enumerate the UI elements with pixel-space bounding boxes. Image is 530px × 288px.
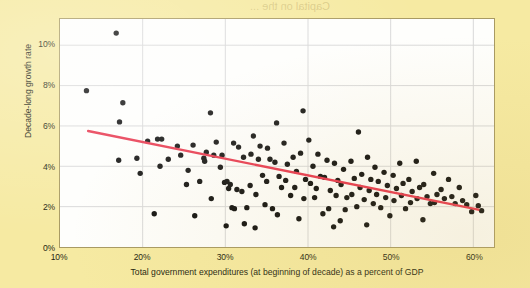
plot-area — [59, 18, 495, 248]
data-point — [303, 177, 308, 182]
data-point — [270, 206, 275, 211]
data-point — [248, 152, 253, 157]
data-point — [234, 187, 239, 192]
data-point — [374, 192, 379, 197]
data-point — [223, 223, 228, 228]
y-axis-label: Decade-long growth rate — [23, 11, 33, 171]
data-point — [285, 162, 290, 167]
data-point — [442, 196, 447, 201]
data-point — [314, 186, 319, 191]
data-point — [326, 206, 331, 211]
data-point — [300, 108, 305, 113]
data-point — [460, 198, 465, 203]
data-point — [324, 158, 329, 163]
data-point — [159, 136, 164, 141]
data-point — [260, 173, 265, 178]
data-point — [252, 225, 257, 230]
x-axis-tick-label: 30% — [201, 252, 249, 262]
data-point — [272, 160, 277, 165]
data-point — [264, 179, 269, 184]
data-point — [383, 195, 388, 200]
data-point — [166, 157, 171, 162]
data-point — [406, 177, 411, 182]
data-point — [352, 176, 357, 181]
data-point — [190, 142, 195, 147]
data-point — [281, 140, 286, 145]
scatter-plot-svg — [60, 19, 494, 247]
data-point — [403, 206, 408, 211]
data-point — [178, 153, 183, 158]
data-point — [421, 182, 426, 187]
data-point — [371, 201, 376, 206]
data-point — [356, 129, 361, 134]
data-point — [385, 183, 390, 188]
data-point — [348, 159, 353, 164]
data-point — [449, 194, 454, 199]
data-point — [247, 183, 252, 188]
data-point — [84, 88, 89, 93]
data-point — [397, 161, 402, 166]
data-point — [275, 212, 280, 217]
data-point — [236, 144, 241, 149]
data-point — [359, 172, 364, 177]
data-point — [262, 202, 267, 207]
data-point — [315, 152, 320, 157]
x-axis-tick-label: 60% — [450, 252, 498, 262]
data-point — [214, 139, 219, 144]
data-point — [446, 177, 451, 182]
data-point — [332, 161, 337, 166]
data-point — [333, 193, 338, 198]
data-point — [276, 174, 281, 179]
data-point — [438, 187, 443, 192]
data-point — [310, 164, 315, 169]
data-point — [184, 182, 189, 187]
data-point — [157, 164, 162, 169]
data-point — [344, 195, 349, 200]
data-point — [408, 200, 413, 205]
data-point — [279, 185, 284, 190]
data-point — [381, 170, 386, 175]
x-axis-tick-label: 20% — [118, 252, 166, 262]
data-point — [338, 218, 343, 223]
data-point — [343, 207, 348, 212]
data-point — [320, 211, 325, 216]
data-point — [328, 188, 333, 193]
data-point — [242, 221, 247, 226]
data-point — [232, 206, 237, 211]
data-point — [274, 120, 279, 125]
data-point — [365, 155, 370, 160]
x-axis-label: Total government expenditures (at beginn… — [59, 267, 495, 277]
data-point — [265, 145, 270, 150]
data-point — [192, 213, 197, 218]
data-points-layer — [84, 30, 485, 230]
data-point — [292, 185, 297, 190]
data-point — [431, 171, 436, 176]
data-point — [390, 173, 395, 178]
data-point — [341, 167, 346, 172]
data-point — [218, 165, 223, 170]
data-point — [185, 168, 190, 173]
data-point — [231, 140, 236, 145]
data-point — [197, 179, 202, 184]
data-point — [209, 196, 214, 201]
data-point — [378, 205, 383, 210]
data-point — [114, 30, 119, 35]
x-axis-tick-label: 40% — [284, 252, 332, 262]
data-point — [239, 189, 244, 194]
data-point — [473, 193, 478, 198]
data-point — [152, 211, 157, 216]
data-point — [290, 155, 295, 160]
y-axis-tick-label: 2% — [3, 202, 55, 212]
data-point — [457, 185, 462, 190]
data-point — [267, 157, 272, 162]
data-point — [244, 205, 249, 210]
data-point — [256, 157, 261, 162]
data-point — [376, 179, 381, 184]
data-point — [134, 156, 139, 161]
data-point — [362, 197, 367, 202]
data-point — [414, 159, 419, 164]
data-point — [202, 159, 207, 164]
x-axis-tick-label: 50% — [367, 252, 415, 262]
data-point — [253, 192, 258, 197]
data-point — [391, 198, 396, 203]
